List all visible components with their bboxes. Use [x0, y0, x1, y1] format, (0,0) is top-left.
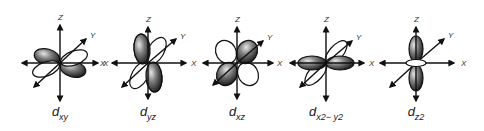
panel-dxz: dxz	[189, 0, 285, 131]
label-subscript: x2− y2	[316, 112, 343, 122]
orbital-label-dz2: dz2	[368, 104, 464, 122]
panel-dz2: dz2	[368, 0, 464, 131]
orbital-label-dyz: dyz	[100, 104, 196, 122]
orbital-label-dxy: dxy	[12, 104, 108, 122]
label-main: d	[408, 104, 415, 119]
label-subscript: yz	[147, 112, 156, 122]
panel-dyz: dyz	[100, 0, 196, 131]
orbital-label-dx2-y2: dx2− y2	[278, 104, 374, 122]
panel-dxy: dxy	[12, 0, 108, 131]
panel-dx2-y2: dx2− y2	[278, 0, 374, 131]
label-subscript: z2	[415, 112, 425, 122]
label-subscript: xy	[59, 112, 68, 122]
orbital-label-dxz: dxz	[189, 104, 285, 122]
label-subscript: xz	[236, 112, 245, 122]
d-orbitals-figure: Z Y X Z Y X	[0, 0, 484, 131]
